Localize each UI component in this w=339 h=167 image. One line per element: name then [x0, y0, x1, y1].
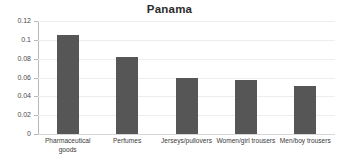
y-axis-tick-label: 0: [0, 130, 31, 138]
y-axis-tick-label: 0.1: [0, 36, 31, 44]
y-axis-tick: [34, 59, 38, 60]
bar: [57, 35, 79, 134]
y-axis-tick: [34, 21, 38, 22]
y-axis-tick: [34, 96, 38, 97]
bar-chart: Panama 00.020.040.060.080.10.12 Pharmace…: [0, 0, 339, 167]
bar: [294, 86, 316, 134]
y-axis-tick: [34, 115, 38, 116]
y-axis-tick: [34, 134, 38, 135]
y-axis-tick-label: 0.04: [0, 92, 31, 100]
x-axis-tick-label: Men/boy trousers: [276, 137, 335, 146]
bar: [116, 57, 138, 134]
gridline: [38, 40, 335, 41]
chart-title: Panama: [0, 2, 339, 16]
plot-area: [38, 21, 335, 134]
x-axis-tick-label: Women/girl trousers: [216, 137, 275, 146]
x-axis-tick-label: Pharmaceutical goods: [38, 137, 97, 154]
x-axis-tick-label: Perfumes: [97, 137, 156, 146]
bar: [235, 80, 257, 134]
y-axis-tick: [34, 78, 38, 79]
y-axis-tick-label: 0.08: [0, 55, 31, 63]
y-axis-tick-labels: 00.020.040.060.080.10.12: [0, 0, 33, 167]
bar: [176, 78, 198, 134]
y-axis-tick-label: 0.12: [0, 17, 31, 25]
x-axis-tick-label: Jerseys/pullovers: [157, 137, 216, 146]
y-axis-tick-label: 0.02: [0, 111, 31, 119]
gridline: [38, 21, 335, 22]
x-axis-tick-labels: Pharmaceutical goodsPerfumesJerseys/pull…: [38, 137, 335, 167]
y-axis-tick-label: 0.06: [0, 74, 31, 82]
gridline: [38, 59, 335, 60]
gridline: [38, 134, 335, 135]
y-axis-tick: [34, 40, 38, 41]
